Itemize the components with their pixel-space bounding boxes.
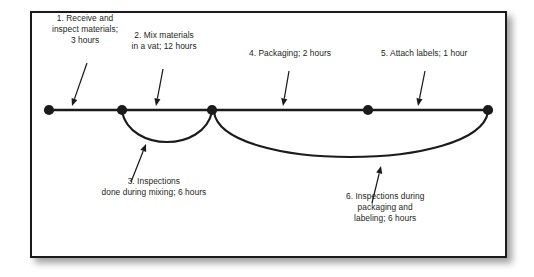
timeline-node-hitbox-1[interactable] bbox=[41, 102, 57, 118]
step-label-1: 1. Receive and inspect materials; 3 hour… bbox=[52, 13, 118, 47]
step-label-6: 6. Inspections during packaging and labe… bbox=[346, 191, 424, 225]
diagram-root: 1. Receive and inspect materials; 3 hour… bbox=[0, 0, 534, 277]
timeline-node-hitbox-3[interactable] bbox=[204, 102, 220, 118]
step-label-4: 4. Packaging; 2 hours bbox=[249, 48, 331, 59]
timeline-node-hitbox-5[interactable] bbox=[480, 102, 496, 118]
step-label-5: 5. Attach labels; 1 hour bbox=[381, 48, 467, 59]
timeline-node-hitbox-4[interactable] bbox=[360, 102, 376, 118]
step-label-3: 3. Inspections done during mixing; 6 hou… bbox=[102, 176, 207, 198]
step-label-2: 2. Mix materials in a vat; 12 hours bbox=[132, 30, 197, 52]
timeline-node-hitbox-2[interactable] bbox=[114, 102, 130, 118]
